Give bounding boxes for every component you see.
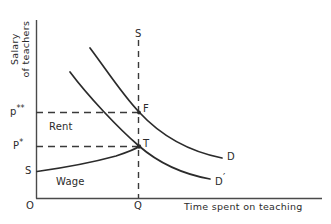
y-axis-title: Salary of teachers	[9, 11, 31, 87]
x-tick-label-q: Q	[134, 201, 142, 211]
point-marker-t	[137, 144, 141, 148]
supply-wage-curve	[37, 147, 139, 172]
demand-curve-high	[90, 48, 222, 158]
x-axis-title: Time spent on teaching	[184, 202, 303, 212]
supply-wage-label: S	[25, 166, 32, 176]
demand-curve-low-label-base: D	[215, 176, 223, 187]
demand-curve-low	[70, 72, 210, 179]
demand-curve-low-label-prime: ′	[223, 172, 225, 183]
point-label-f: F	[143, 104, 149, 114]
demand-curve-high-label: D	[227, 152, 235, 162]
y-tick-label-p-star: P*	[13, 139, 23, 151]
area-label-rent: Rent	[49, 122, 73, 132]
point-label-t: T	[143, 139, 149, 149]
economics-diagram: Salary of teachers Time spent on teachin…	[0, 0, 331, 224]
origin-label: O	[26, 201, 34, 211]
y-tick-label-p-double-star-sup: **	[17, 104, 25, 113]
point-marker-f	[137, 111, 141, 115]
y-axis-title-line1: Salary	[9, 11, 20, 87]
diagram-canvas	[0, 0, 331, 224]
demand-curve-low-label: D′	[215, 173, 225, 187]
y-axis-title-line2: of teachers	[20, 11, 31, 87]
area-label-wage: Wage	[56, 177, 85, 187]
supply-vertical-label: S	[135, 29, 142, 39]
y-tick-label-p-double-star: p**	[10, 105, 25, 117]
y-tick-label-p-star-sup: *	[19, 138, 23, 147]
